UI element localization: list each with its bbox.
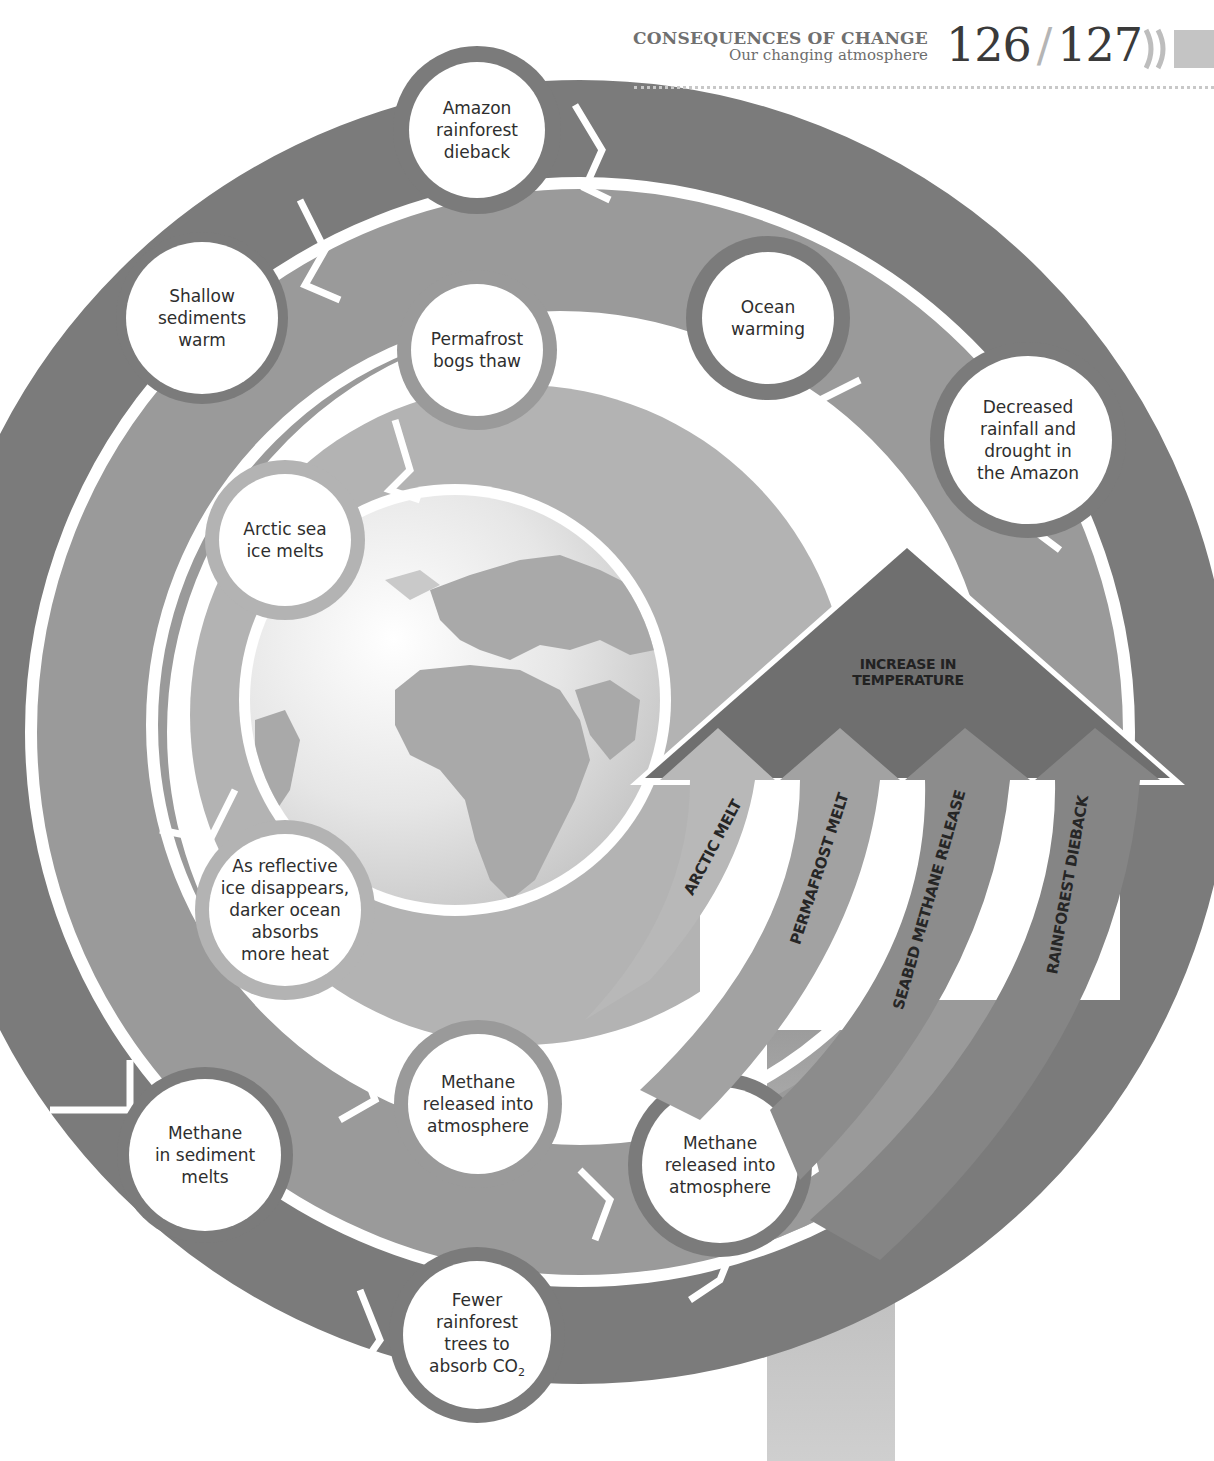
node-line: bogs thaw — [431, 350, 523, 372]
temperature-line-1: INCREASE IN — [808, 656, 1008, 672]
node-line: rainfall and — [977, 418, 1079, 440]
node-line: released into — [665, 1154, 776, 1176]
node-line: more heat — [221, 943, 349, 965]
header-dotted-rule — [634, 86, 1214, 89]
node-line: rainforest — [436, 119, 518, 141]
page-left: 126 — [946, 18, 1031, 72]
node-amazon-dieback: Amazonrainforestdieback — [409, 62, 545, 198]
node-line: As reflective — [221, 855, 349, 877]
diagram-graphic — [0, 0, 1214, 1461]
node-line: rainforest — [429, 1311, 525, 1333]
node-line: trees to — [429, 1333, 525, 1355]
climate-feedback-diagram: CONSEQUENCES OF CHANGE Our changing atmo… — [0, 0, 1214, 1461]
header-titles: CONSEQUENCES OF CHANGE Our changing atmo… — [633, 30, 928, 64]
temperature-line-2: TEMPERATURE — [808, 672, 1008, 688]
node-line: Shallow — [158, 285, 246, 307]
page-separator: / — [1037, 18, 1052, 72]
node-methane-released-seabed: Methanereleased intoatmosphere — [642, 1087, 798, 1243]
node-line: darker ocean — [221, 899, 349, 921]
node-line: warm — [158, 329, 246, 351]
node-line: Methane — [155, 1122, 255, 1144]
node-line: drought in — [977, 440, 1079, 462]
node-methane-released-inner: Methanereleased intoatmosphere — [408, 1034, 548, 1174]
node-decreased-rainfall: Decreasedrainfall anddrought inthe Amazo… — [944, 356, 1112, 524]
section-subtitle: Our changing atmosphere — [633, 48, 928, 64]
node-line: melts — [155, 1166, 255, 1188]
node-line: Ocean — [731, 296, 805, 318]
node-line: released into — [423, 1093, 534, 1115]
node-line: absorbs — [221, 921, 349, 943]
increase-in-temperature-label: INCREASE IN TEMPERATURE — [808, 656, 1008, 688]
page-numbers: 126/127 — [946, 18, 1142, 72]
node-line: ice disappears, — [221, 877, 349, 899]
page-right: 127 — [1057, 18, 1142, 72]
double-chevron-right-icon — [1144, 28, 1214, 70]
node-line: Amazon — [436, 97, 518, 119]
node-methane-sediment: Methanein sedimentmelts — [129, 1079, 281, 1231]
node-line: Methane — [423, 1071, 534, 1093]
node-reflective-ice: As reflectiveice disappears,darker ocean… — [209, 834, 361, 986]
node-line: Methane — [665, 1132, 776, 1154]
node-line: Permafrost — [431, 328, 523, 350]
co2-subscript: 2 — [518, 1367, 525, 1380]
node-line: the Amazon — [977, 462, 1079, 484]
node-line: atmosphere — [665, 1176, 776, 1198]
node-arctic-sea-ice: Arctic seaice melts — [219, 474, 351, 606]
node-line: Decreased — [977, 396, 1079, 418]
node-line: sediments — [158, 307, 246, 329]
node-line: Fewer — [429, 1289, 525, 1311]
node-line: dieback — [436, 141, 518, 163]
node-shallow-sediments: Shallowsedimentswarm — [126, 242, 278, 394]
node-line: ice melts — [243, 540, 326, 562]
co2-text: absorb CO — [429, 1356, 518, 1376]
node-line: Arctic sea — [243, 518, 326, 540]
node-ocean-warming: Oceanwarming — [702, 252, 834, 384]
node-line: warming — [731, 318, 805, 340]
node-line: atmosphere — [423, 1115, 534, 1137]
node-fewer-trees: Fewerrainforesttrees toabsorb CO2 — [403, 1261, 551, 1409]
page-header: CONSEQUENCES OF CHANGE Our changing atmo… — [594, 22, 1214, 82]
node-line: absorb CO2 — [429, 1355, 525, 1381]
node-line: in sediment — [155, 1144, 255, 1166]
node-permafrost-bogs: Permafrostbogs thaw — [411, 284, 543, 416]
